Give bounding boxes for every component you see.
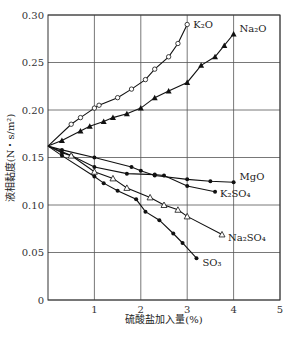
marker-filled-triangle [77, 128, 83, 133]
series-label: K₂O [193, 19, 213, 30]
marker-open-circle [69, 122, 73, 126]
marker-open-triangle [124, 185, 130, 191]
y-tick-label: 0.25 [22, 57, 44, 68]
x-axis-label: 硫酸盐加入量(%) [125, 313, 202, 325]
y-tick-label: 0.30 [22, 10, 44, 21]
marker-open-circle [185, 22, 189, 26]
marker-open-circle [153, 67, 157, 71]
marker-filled-dot [185, 184, 189, 188]
marker-open-circle [115, 95, 119, 99]
marker-filled-dot [208, 179, 212, 183]
series-labels: K₂ONa₂OMgOK₂SO₄Na₂SO₄SO₃ [193, 19, 266, 269]
marker-filled-triangle [198, 62, 204, 68]
marker-filled-dot [139, 169, 143, 173]
marker-filled-dot [102, 181, 106, 185]
marker-filled-dot [157, 218, 161, 222]
marker-filled-dot [171, 232, 175, 236]
marker-filled-triangle [166, 88, 172, 94]
marker-filled-dot [60, 154, 64, 158]
marker-filled-dot [181, 241, 185, 245]
marker-filled-dot [143, 210, 147, 214]
y-tick-label: 0.15 [22, 152, 44, 163]
marker-filled-triangle [231, 31, 237, 37]
x-tick-label: 1 [91, 304, 97, 315]
marker-open-circle [97, 103, 101, 107]
marker-filled-dot [185, 177, 189, 181]
axes: 00.050.100.150.200.250.3012345 [22, 10, 283, 316]
series-label: K₂SO₄ [220, 188, 251, 199]
y-tick-label: 0.20 [22, 105, 44, 116]
marker-filled-dot [213, 190, 217, 194]
y-tick-label: 0.10 [22, 200, 44, 211]
series-label: MgO [240, 171, 265, 182]
marker-filled-triangle [124, 111, 130, 117]
marker-open-triangle [91, 169, 97, 175]
marker-open-circle [92, 106, 96, 110]
marker-open-circle [143, 77, 147, 81]
marker-open-triangle [219, 231, 225, 237]
viscosity-chart: 00.050.100.150.200.250.3012345 K₂ONa₂OMg… [0, 0, 289, 342]
marker-filled-dot [130, 165, 134, 169]
x-tick-label: 4 [230, 304, 236, 315]
series-lines [48, 22, 237, 260]
marker-filled-dot [92, 175, 96, 179]
grid [48, 15, 280, 300]
marker-filled-triangle [59, 137, 65, 143]
series-line [48, 25, 187, 147]
x-tick-label: 5 [277, 304, 283, 315]
y-tick-label: 0 [38, 295, 44, 306]
marker-filled-dot [92, 156, 96, 160]
marker-filled-dot [162, 174, 166, 178]
marker-filled-dot [194, 256, 198, 260]
series-label: SO₃ [202, 257, 221, 268]
marker-open-circle [129, 87, 133, 91]
marker-open-triangle [147, 194, 153, 200]
marker-filled-dot [232, 180, 236, 184]
y-tick-label: 0.05 [22, 247, 44, 258]
marker-filled-dot [153, 173, 157, 177]
series-label: Na₂O [240, 23, 267, 34]
series-label: Na₂SO₄ [228, 232, 266, 243]
marker-filled-dot [116, 189, 120, 193]
marker-filled-dot [125, 172, 129, 176]
marker-open-circle [166, 55, 170, 59]
marker-filled-triangle [101, 118, 107, 124]
marker-filled-dot [134, 197, 138, 201]
y-axis-label: 液相黏度(N・s/m²) [4, 114, 16, 203]
marker-open-circle [78, 115, 82, 119]
marker-filled-triangle [152, 95, 158, 101]
series-line [48, 146, 222, 234]
series-line [48, 146, 196, 258]
marker-open-circle [176, 41, 180, 45]
